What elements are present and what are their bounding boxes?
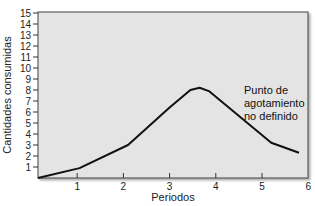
y-tick-label: 10 — [20, 63, 32, 74]
y-axis: 123456789101112131415 — [20, 8, 38, 173]
x-tick-label: 6 — [305, 181, 311, 192]
x-tick-label: 4 — [213, 181, 219, 192]
y-tick-label: 13 — [20, 30, 32, 41]
y-tick-label: 4 — [25, 129, 31, 140]
x-tick-label: 5 — [259, 181, 265, 192]
y-tick-label: 7 — [25, 96, 31, 107]
y-tick-label: 15 — [20, 8, 32, 19]
y-axis-label: Cantidades consumidas — [1, 36, 13, 154]
annotation-line: agotamiento — [244, 97, 305, 109]
y-tick-label: 2 — [25, 151, 31, 162]
y-tick-label: 6 — [25, 107, 31, 118]
x-tick-label: 2 — [121, 181, 127, 192]
y-tick-label: 9 — [25, 74, 31, 85]
y-tick-label: 8 — [25, 85, 31, 96]
y-tick-label: 14 — [20, 19, 32, 30]
x-axis-label: Periodos — [151, 191, 195, 203]
annotation-line: Punto de — [244, 84, 288, 96]
chart: 123456789101112131415 123456 Punto deago… — [0, 0, 315, 206]
y-tick-label: 11 — [21, 52, 32, 63]
x-tick-label: 1 — [74, 181, 80, 192]
y-tick-label: 1 — [25, 162, 31, 173]
y-tick-label: 12 — [20, 41, 32, 52]
y-tick-label: 5 — [25, 118, 31, 129]
y-tick-label: 3 — [25, 140, 31, 151]
annotation-line: no definido — [244, 110, 298, 122]
